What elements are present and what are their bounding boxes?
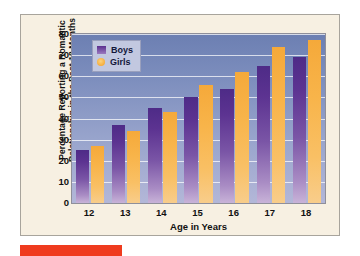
y-axis-tick-label: 40 [47,112,69,123]
bar-girls-16 [235,72,249,203]
bar-girls-13 [127,131,141,203]
bar-girls-18 [308,40,322,203]
x-axis-title: Age in Years [71,221,326,232]
y-axis-tick-label: 60 [47,70,69,81]
accent-bar [20,245,122,256]
y-axis-tick-label: 30 [47,133,69,144]
legend-label-boys: Boys [111,45,133,55]
bar-girls-12 [91,146,105,203]
y-axis-tick-label: 80 [47,28,69,39]
bar-girls-15 [199,85,213,203]
x-axis-tick-label: 14 [156,207,167,218]
bar-boys-15 [184,97,198,203]
y-axis-tick-labels: 01020304050607080 [47,27,69,203]
legend-swatch-boys-icon [97,46,106,54]
legend-label-girls: Girls [110,57,131,67]
y-axis-tick-label: 20 [47,154,69,165]
figure-panel: Percentage Reporting a Romantic Relation… [20,14,340,236]
legend-item-boys: Boys [97,44,133,56]
y-axis-tick-label: 0 [47,197,69,208]
x-axis-tick-labels: 12131415161718 [71,207,326,220]
chart-legend: Boys Girls [92,40,141,72]
bar-boys-14 [148,108,162,203]
bar-boys-18 [293,57,307,203]
x-axis-tick-label: 17 [264,207,275,218]
bar-boys-13 [112,125,126,203]
plot-area: Boys Girls [71,33,326,204]
x-axis-tick-label: 16 [228,207,239,218]
bar-boys-12 [76,150,90,203]
bar-boys-17 [257,66,271,203]
y-axis-tick-label: 10 [47,175,69,186]
y-axis-tick-label: 50 [47,91,69,102]
x-axis-tick-label: 18 [301,207,312,218]
bar-girls-17 [272,47,286,203]
x-axis-tick-label: 12 [84,207,95,218]
x-axis-tick-label: 15 [192,207,203,218]
legend-swatch-girls-icon [97,58,105,66]
bar-boys-16 [220,89,234,203]
bar-girls-14 [163,112,177,203]
x-axis-tick-label: 13 [120,207,131,218]
y-axis-tick-label: 70 [47,49,69,60]
legend-item-girls: Girls [97,56,133,68]
